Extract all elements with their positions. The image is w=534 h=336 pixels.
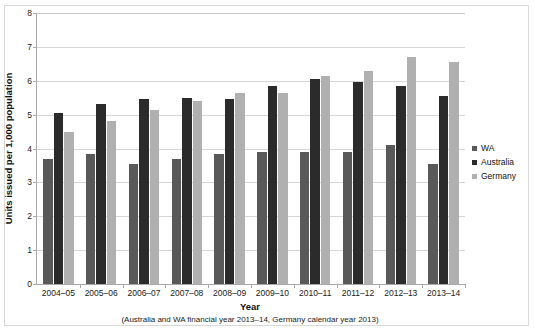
x-tick-mark	[465, 284, 466, 288]
legend-swatch-icon	[472, 160, 477, 165]
bar	[343, 152, 353, 284]
y-tick-label: 8	[27, 9, 32, 18]
bar	[225, 99, 235, 284]
y-tick-label: 6	[27, 77, 32, 86]
y-tick-label: 7	[27, 43, 32, 52]
bar-groups	[37, 13, 465, 284]
bar-group	[422, 13, 465, 284]
x-tick-label: 2011–12	[342, 289, 374, 298]
y-tick-label: 1	[27, 246, 32, 255]
bar-group	[251, 13, 294, 284]
x-tick-mark	[422, 284, 423, 288]
x-tick-mark	[337, 284, 338, 288]
legend-label: Australia	[481, 158, 514, 167]
y-tick-label: 2	[27, 212, 32, 221]
bar-group	[208, 13, 251, 284]
y-tick-mark	[33, 284, 37, 285]
y-axis-title: Units issued per 1,000 population	[2, 13, 16, 284]
bar	[235, 93, 245, 284]
x-tick-mark	[379, 284, 380, 288]
bar-group	[165, 13, 208, 284]
bar-group	[80, 13, 123, 284]
x-tick-label: 2009–10	[256, 289, 289, 298]
x-axis-note: (Australia and WA financial year 2013–14…	[36, 315, 464, 324]
bar	[107, 121, 117, 284]
bar	[439, 96, 449, 284]
x-tick-mark	[165, 284, 166, 288]
bar	[182, 98, 192, 284]
bar	[64, 132, 74, 284]
x-tick-label: 2012–13	[384, 289, 417, 298]
bar	[353, 82, 363, 284]
bar	[139, 99, 149, 284]
legend-item[interactable]: Germany	[472, 169, 516, 183]
bar	[193, 101, 203, 284]
bar	[214, 154, 224, 284]
legend-label: WA	[481, 144, 494, 153]
bar	[43, 159, 53, 284]
legend-swatch-icon	[472, 146, 477, 151]
bar	[407, 57, 417, 284]
x-tick-mark	[208, 284, 209, 288]
x-tick-label: 2004–05	[42, 289, 75, 298]
chart-figure: Units issued per 1,000 population 012345…	[0, 0, 534, 336]
bar-group	[123, 13, 166, 284]
bar	[449, 62, 459, 284]
bar	[268, 86, 278, 284]
x-tick-label: 2007–08	[170, 289, 203, 298]
legend-swatch-icon	[472, 174, 477, 179]
x-tick-mark	[294, 284, 295, 288]
bar	[257, 152, 267, 284]
bar-group	[37, 13, 80, 284]
bar	[172, 159, 182, 284]
bar	[310, 79, 320, 284]
y-axis-title-text: Units issued per 1,000 population	[4, 73, 15, 225]
x-tick-label: 2005–06	[85, 289, 118, 298]
bar-group	[379, 13, 422, 284]
x-tick-label: 2008–09	[213, 289, 246, 298]
bar	[428, 164, 438, 284]
bar	[150, 110, 160, 284]
x-tick-label: 2013–14	[427, 289, 460, 298]
bar	[364, 71, 374, 284]
chart-legend: WAAustraliaGermany	[472, 141, 516, 183]
bar-group	[337, 13, 380, 284]
x-tick-mark	[123, 284, 124, 288]
bar	[86, 154, 96, 284]
plot-area: 012345678 2004–052005–062006–072007–0820…	[36, 13, 465, 285]
bar	[54, 113, 64, 284]
y-tick-label: 4	[27, 144, 32, 153]
bar	[300, 152, 310, 284]
legend-item[interactable]: WA	[472, 141, 516, 155]
x-tick-mark	[80, 284, 81, 288]
y-tick-label: 5	[27, 110, 32, 119]
bar-group	[294, 13, 337, 284]
y-tick-label: 0	[27, 280, 32, 289]
bar	[129, 164, 139, 284]
bar	[96, 104, 106, 284]
bar	[386, 145, 396, 284]
y-tick-label: 3	[27, 178, 32, 187]
legend-item[interactable]: Australia	[472, 155, 516, 169]
bar	[396, 86, 406, 284]
bar	[278, 93, 288, 284]
x-tick-label: 2010–11	[299, 289, 331, 298]
legend-label: Germany	[481, 172, 516, 181]
x-axis-title: Year	[36, 301, 464, 312]
bar	[321, 76, 331, 284]
x-tick-mark	[251, 284, 252, 288]
x-tick-label: 2006–07	[127, 289, 160, 298]
